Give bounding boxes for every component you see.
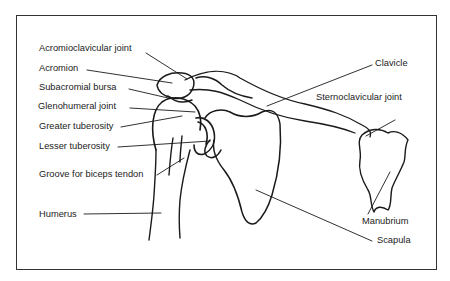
scapula-bone (205, 110, 281, 224)
label-manubrium: Manubrium (362, 217, 409, 226)
leader-lines (84, 53, 395, 241)
label-acromion: Acromion (39, 64, 78, 73)
humerus-bone (149, 136, 190, 240)
label-clavicle: Clavicle (375, 59, 408, 68)
label-acromioclavicular-joint: Acromioclavicular joint (39, 44, 131, 53)
label-lesser-tuberosity: Lesser tuberosity (39, 142, 110, 151)
label-groove-for-biceps-tendon: Groove for biceps tendon (39, 170, 143, 179)
label-greater-tuberosity: Greater tuberosity (39, 122, 113, 131)
label-sternoclavicular-joint: Sternoclavicular joint (316, 93, 402, 102)
manubrium-bone (359, 129, 408, 212)
label-subacromial-bursa: Subacromial bursa (39, 83, 117, 92)
label-scapula: Scapula (377, 236, 411, 245)
label-humerus: Humerus (39, 210, 77, 219)
label-glenohumeral-joint: Glenohumeral joint (38, 102, 116, 111)
